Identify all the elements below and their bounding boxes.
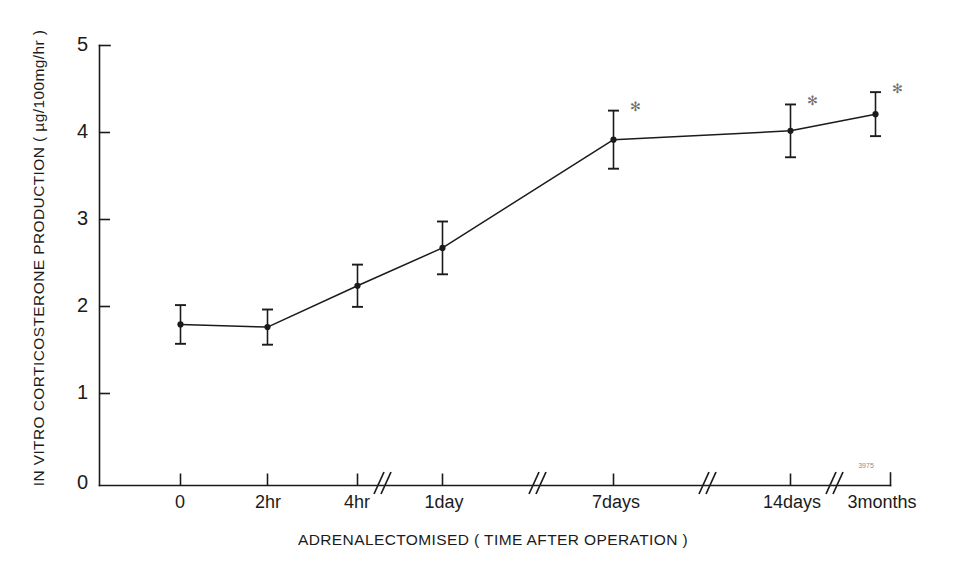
y-tick-label-3: 3: [77, 207, 88, 229]
x-tick-label-14days: 14days: [763, 492, 821, 512]
data-point-4hr: [352, 265, 363, 307]
y-tick-label-1: 1: [77, 381, 88, 403]
data-marker: [872, 111, 878, 117]
y-tick-label-5: 5: [77, 33, 88, 55]
x-axis-title: ADRENALECTOMISED ( TIME AFTER OPERATION …: [298, 531, 688, 548]
significance-star: ✻: [807, 93, 818, 108]
data-point-14days: ✻: [785, 93, 818, 157]
x-tick-label-1day: 1day: [424, 492, 463, 512]
data-point-7days: ✻: [608, 99, 641, 169]
data-marker: [787, 128, 793, 134]
axis-break-after-4hr: [374, 472, 391, 494]
data-marker: [610, 137, 616, 143]
axis-break-after-7days: [699, 472, 716, 494]
scan-annotation: 3975: [858, 462, 874, 469]
significance-star: ✻: [630, 99, 641, 114]
significance-star: ✻: [892, 81, 903, 96]
x-tick-label-4hr: 4hr: [344, 492, 370, 512]
y-axis-title: IN VITRO CORTICOSTERONE PRODUCTION ( µg/…: [30, 30, 47, 487]
data-marker: [177, 321, 183, 327]
line-chart: IN VITRO CORTICOSTERONE PRODUCTION ( µg/…: [0, 0, 954, 575]
x-tick-label-7days: 7days: [592, 492, 640, 512]
data-point-3months: ✻: [870, 81, 903, 137]
x-tick-label-2hr: 2hr: [255, 492, 281, 512]
data-point-1day: [437, 222, 448, 275]
x-tick-label-3months: 3months: [847, 492, 916, 512]
axis-break-after-1day: [529, 472, 546, 494]
data-marker: [264, 324, 270, 330]
y-tick-label-0: 0: [77, 471, 88, 493]
series-line: [181, 114, 876, 327]
x-tick-label-0: 0: [175, 492, 185, 512]
y-tick-label-2: 2: [77, 294, 88, 316]
y-tick-label-4: 4: [77, 120, 88, 142]
data-marker: [439, 245, 445, 251]
axis-break-after-14days: [826, 472, 843, 494]
data-points-group: ✻✻✻: [175, 81, 903, 345]
data-marker: [354, 283, 360, 289]
figure-root: IN VITRO CORTICOSTERONE PRODUCTION ( µg/…: [0, 0, 954, 575]
